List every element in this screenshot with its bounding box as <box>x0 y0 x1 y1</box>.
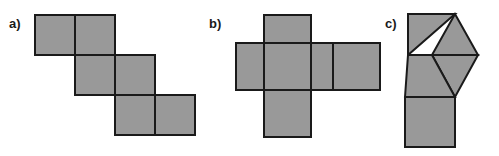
figure-board: a) b) c) <box>0 0 499 156</box>
figures-vector-canvas <box>0 0 499 156</box>
square-r2c2 <box>75 55 115 95</box>
square-r3c4 <box>155 95 195 135</box>
square-r1c2 <box>75 15 115 55</box>
square-r2c3 <box>115 55 155 95</box>
square-right2 <box>333 43 380 90</box>
square-center <box>264 43 311 90</box>
figure-c <box>405 14 478 147</box>
square-r3c3 <box>115 95 155 135</box>
figure-a <box>35 15 195 135</box>
square-bottom <box>264 90 311 137</box>
square-bottom <box>405 97 455 147</box>
figure-b <box>236 15 380 137</box>
square-r1c1 <box>35 15 75 55</box>
